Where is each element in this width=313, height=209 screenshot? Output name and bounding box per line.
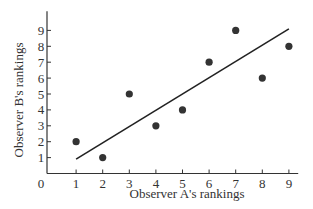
data-point — [73, 138, 80, 145]
x-tick-label: 2 — [99, 176, 106, 191]
x-tick-label: 9 — [286, 176, 293, 191]
scatter-chart: 123456789123456789 Observer A's rankings… — [0, 0, 313, 209]
origin-label: 0 — [38, 176, 45, 191]
data-point — [152, 122, 159, 129]
x-tick-label: 1 — [73, 176, 80, 191]
y-tick-label: 8 — [38, 39, 45, 54]
data-point — [99, 154, 106, 161]
axes — [47, 11, 298, 173]
y-tick-label: 4 — [38, 102, 45, 117]
y-axis-label: Observer B's rankings — [11, 43, 26, 158]
x-tick-label: 8 — [259, 176, 266, 191]
data-point — [285, 43, 292, 50]
y-tick-label: 9 — [38, 23, 45, 38]
y-tick-label: 3 — [38, 118, 45, 133]
y-tick-label: 7 — [38, 55, 45, 70]
data-point — [179, 106, 186, 113]
y-tick-label: 2 — [38, 134, 45, 149]
ticks: 123456789123456789 — [38, 23, 292, 191]
data-point — [206, 59, 213, 66]
y-tick-label: 1 — [38, 150, 45, 165]
regression-line — [76, 29, 289, 159]
x-axis-label: Observer A's rankings — [130, 186, 245, 201]
y-tick-label: 6 — [38, 71, 45, 86]
data-point — [232, 27, 239, 34]
data-point — [259, 75, 266, 82]
data-point — [126, 90, 133, 97]
y-tick-label: 5 — [38, 87, 45, 102]
